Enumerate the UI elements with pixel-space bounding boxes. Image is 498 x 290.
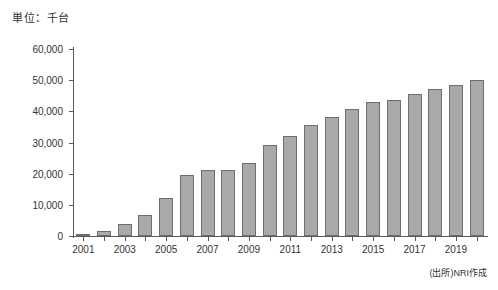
plot-area [73, 49, 487, 236]
x-axis-tick [290, 237, 291, 241]
x-axis-tick [394, 237, 395, 241]
x-axis-tick [332, 237, 333, 241]
x-axis-tick [228, 237, 229, 241]
x-axis-tick [208, 237, 209, 241]
x-axis-tick-label: 2013 [321, 244, 343, 255]
bar [180, 175, 194, 236]
bar [366, 102, 380, 236]
x-axis-line [73, 236, 488, 237]
bar [408, 94, 422, 236]
bar [118, 224, 132, 236]
x-axis-tick [456, 237, 457, 241]
y-axis-tick-label: 50,000 [32, 75, 63, 86]
x-axis-tick [187, 237, 188, 241]
bar [201, 170, 215, 236]
x-axis-tick [477, 237, 478, 241]
x-axis-tick-label: 2003 [114, 244, 136, 255]
bar [283, 136, 297, 236]
x-axis-tick-label: 2015 [362, 244, 384, 255]
x-axis-tick-label: 2019 [445, 244, 467, 255]
x-axis-tick [270, 237, 271, 241]
bar [138, 215, 152, 237]
bar [304, 125, 318, 236]
bar [159, 198, 173, 236]
y-axis-tick-label: 40,000 [32, 106, 63, 117]
source-note: (出所)NRI作成 [430, 266, 488, 279]
x-axis-tick [166, 237, 167, 241]
bar [325, 117, 339, 236]
y-axis-tick [69, 143, 74, 144]
y-axis-labels: 010,00020,00030,00040,00050,00060,000 [0, 0, 67, 290]
x-axis-tick-label: 2009 [238, 244, 260, 255]
x-axis-tick-label: 2011 [280, 244, 302, 255]
x-axis-tick [435, 237, 436, 241]
x-axis-tick [352, 237, 353, 241]
bar [221, 170, 235, 236]
x-axis-tick-label: 2005 [155, 244, 177, 255]
y-axis-tick-label: 20,000 [32, 168, 63, 179]
bar-chart: 単位：千台 010,00020,00030,00040,00050,00060,… [0, 0, 498, 290]
x-axis-tick [415, 237, 416, 241]
x-axis-tick [104, 237, 105, 241]
y-axis-tick [69, 111, 74, 112]
bar [242, 163, 256, 236]
y-axis-tick [69, 174, 74, 175]
bar [76, 234, 90, 236]
x-axis-tick [145, 237, 146, 241]
y-axis-tick-label: 30,000 [32, 137, 63, 148]
y-axis-tick-label: 60,000 [32, 44, 63, 55]
x-axis-tick [249, 237, 250, 241]
y-axis-tick [69, 205, 74, 206]
y-axis-tick-label: 0 [57, 231, 63, 242]
bar [97, 231, 111, 236]
bar [387, 100, 401, 236]
x-axis-tick-label: 2001 [72, 244, 94, 255]
y-axis-tick-label: 10,000 [32, 199, 63, 210]
bar [470, 80, 484, 236]
bar [449, 85, 463, 236]
y-axis-tick [69, 80, 74, 81]
bar [263, 145, 277, 236]
y-axis-tick [69, 49, 74, 50]
bar [345, 109, 359, 236]
x-axis-tick [125, 237, 126, 241]
x-axis-tick-label: 2007 [196, 244, 218, 255]
x-axis-tick [83, 237, 84, 241]
y-axis-tick [69, 236, 74, 237]
bar [428, 89, 442, 236]
x-axis-tick [373, 237, 374, 241]
x-axis-tick [311, 237, 312, 241]
x-axis-tick-label: 2017 [403, 244, 425, 255]
